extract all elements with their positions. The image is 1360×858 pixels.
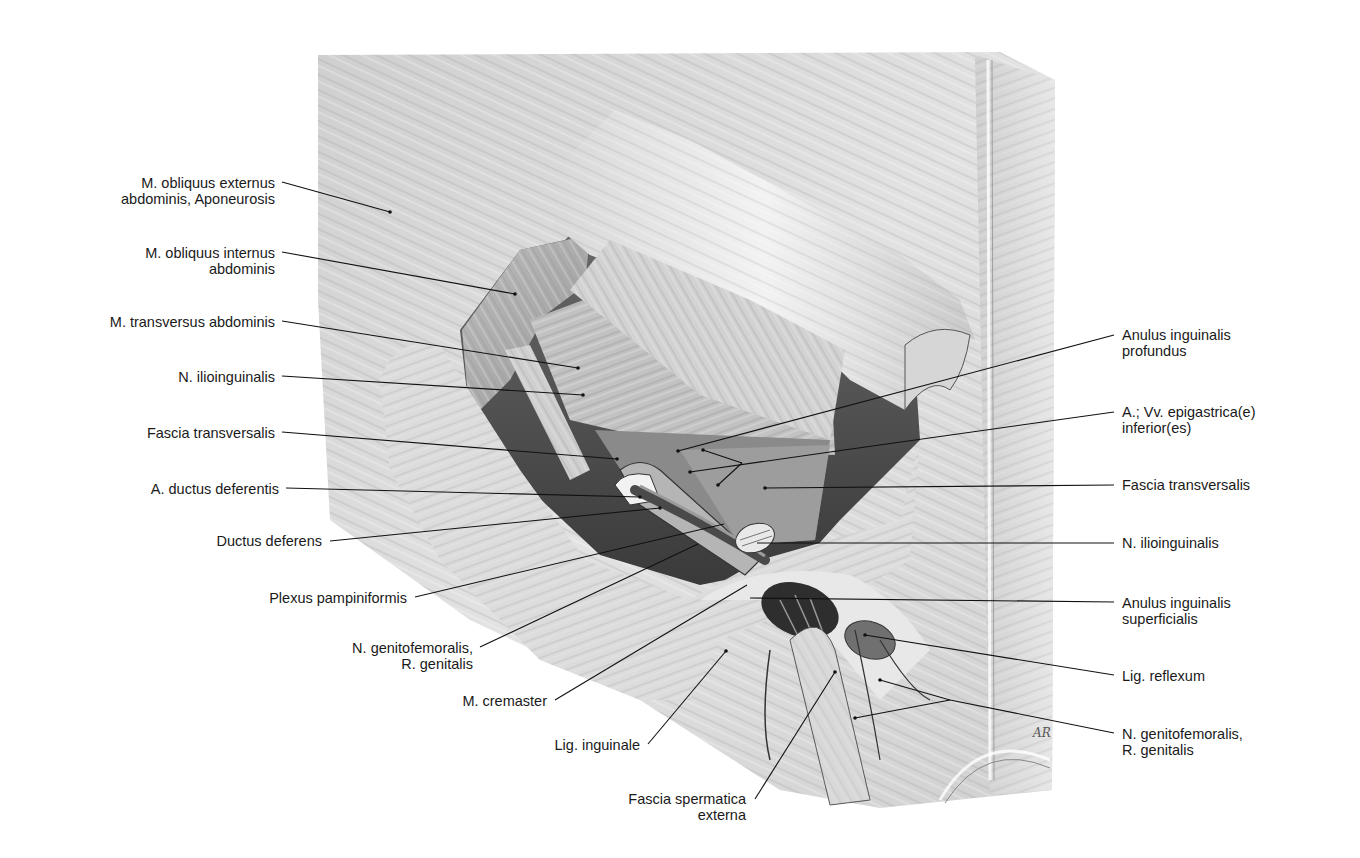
label-fascia-transversalis-left: Fascia transversalis bbox=[147, 425, 275, 441]
label-line: M. cremaster bbox=[462, 693, 547, 709]
label-ductus-deferens: Ductus deferens bbox=[216, 533, 322, 549]
label-line: R. genitalis bbox=[352, 656, 473, 672]
label-line: externa bbox=[628, 807, 746, 823]
label-lig-inguinale: Lig. inguinale bbox=[555, 737, 640, 753]
label-line: Anulus inguinalis bbox=[1122, 327, 1231, 343]
label-line: M. obliquus externus bbox=[121, 175, 275, 191]
label-line: M. obliquus internus bbox=[145, 245, 275, 261]
label-line: Fascia spermatica bbox=[628, 791, 746, 807]
label-line: Ductus deferens bbox=[216, 533, 322, 549]
label-line: Fascia transversalis bbox=[147, 425, 275, 441]
label-obliquus-internus: M. obliquus internus abdominis bbox=[145, 245, 275, 277]
label-line: profundus bbox=[1122, 343, 1231, 359]
label-line: N. genitofemoralis, bbox=[1122, 726, 1243, 742]
label-line: Lig. reflexum bbox=[1122, 668, 1205, 684]
label-line: Lig. inguinale bbox=[555, 737, 640, 753]
label-line: N. genitofemoralis, bbox=[352, 640, 473, 656]
label-line: N. ilioinguinalis bbox=[1122, 535, 1219, 551]
label-line: Fascia transversalis bbox=[1122, 477, 1250, 493]
label-lig-reflexum: Lig. reflexum bbox=[1122, 668, 1205, 684]
label-line: R. genitalis bbox=[1122, 742, 1243, 758]
label-line: A.; Vv. epigastrica(e) bbox=[1122, 404, 1256, 420]
label-genitofemoralis-right: N. genitofemoralis, R. genitalis bbox=[1122, 726, 1243, 758]
label-epigastrica-inferior: A.; Vv. epigastrica(e) inferior(es) bbox=[1122, 404, 1256, 436]
label-transversus-abdominis: M. transversus abdominis bbox=[110, 314, 275, 330]
label-line: inferior(es) bbox=[1122, 420, 1256, 436]
label-obliquus-externus: M. obliquus externus abdominis, Aponeuro… bbox=[121, 175, 275, 207]
label-line: abdominis bbox=[145, 261, 275, 277]
label-ilioinguinalis-right: N. ilioinguinalis bbox=[1122, 535, 1219, 551]
label-line: Anulus inguinalis bbox=[1122, 595, 1231, 611]
label-anulus-superficialis: Anulus inguinalis superficialis bbox=[1122, 595, 1231, 627]
artist-signature: AR bbox=[1032, 726, 1051, 740]
label-line: M. transversus abdominis bbox=[110, 314, 275, 330]
label-ilioinguinalis-left: N. ilioinguinalis bbox=[178, 369, 275, 385]
label-fascia-spermatica-externa: Fascia spermatica externa bbox=[628, 791, 746, 823]
label-line: N. ilioinguinalis bbox=[178, 369, 275, 385]
label-anulus-profundus: Anulus inguinalis profundus bbox=[1122, 327, 1231, 359]
label-line: abdominis, Aponeurosis bbox=[121, 191, 275, 207]
label-line: A. ductus deferentis bbox=[151, 481, 279, 497]
label-genitofemoralis-left: N. genitofemoralis, R. genitalis bbox=[352, 640, 473, 672]
label-line: Plexus pampiniformis bbox=[269, 590, 407, 606]
label-line: superficialis bbox=[1122, 611, 1231, 627]
label-cremaster: M. cremaster bbox=[462, 693, 547, 709]
label-plexus-pampiniformis: Plexus pampiniformis bbox=[269, 590, 407, 606]
label-a-ductus-deferentis: A. ductus deferentis bbox=[151, 481, 279, 497]
label-fascia-transversalis-right: Fascia transversalis bbox=[1122, 477, 1250, 493]
